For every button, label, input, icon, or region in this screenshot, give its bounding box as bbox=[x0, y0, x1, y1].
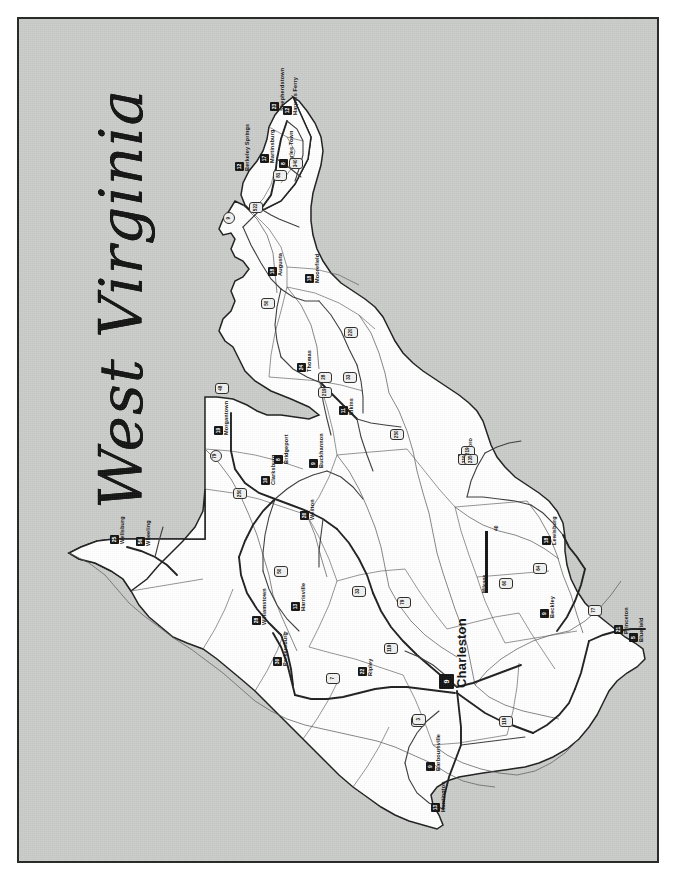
city-label: Bluefield bbox=[639, 617, 645, 642]
route-shield[interactable]: 522 bbox=[249, 202, 263, 213]
city-label: Charleston bbox=[455, 618, 468, 688]
route-shield[interactable]: 50 bbox=[274, 566, 288, 577]
city-marker[interactable]: 23 bbox=[270, 102, 279, 111]
route-number: 64 bbox=[538, 566, 543, 571]
city-label: Wheeling bbox=[146, 520, 152, 546]
city-marker[interactable]: 8 bbox=[274, 455, 283, 464]
city-marker[interactable]: 9 bbox=[540, 609, 549, 618]
route-shield[interactable]: 3 bbox=[412, 714, 426, 725]
route-number: 79 bbox=[402, 600, 407, 605]
route-shield[interactable]: 219 bbox=[318, 387, 332, 398]
city-marker-number: 24 bbox=[299, 365, 304, 371]
route-shield[interactable]: 250 bbox=[390, 429, 404, 440]
city-marker[interactable]: 11 bbox=[339, 406, 348, 415]
city-marker-number: 20 bbox=[302, 513, 307, 519]
city-marker[interactable]: 30 bbox=[273, 657, 282, 666]
route-shield[interactable]: 33 bbox=[343, 372, 357, 383]
route-shield[interactable]: 79 bbox=[210, 450, 222, 462]
city-marker[interactable]: 10 bbox=[261, 476, 270, 485]
map-frame: West Virginia .land{fill:#ffffff;stroke:… bbox=[17, 17, 659, 863]
city-marker[interactable]: 25 bbox=[110, 535, 119, 544]
city-label: Wellsburg bbox=[120, 516, 126, 544]
route-shield[interactable]: 79 bbox=[397, 597, 411, 608]
city-marker[interactable]: 18 bbox=[305, 274, 314, 283]
city-marker-number: 9 bbox=[311, 462, 316, 465]
city-marker[interactable]: 56 bbox=[136, 537, 145, 546]
map-page: West Virginia .land{fill:#ffffff;stroke:… bbox=[0, 0, 676, 880]
route-shield[interactable]: 48 bbox=[215, 383, 229, 394]
city-marker-number: 9 bbox=[428, 765, 433, 768]
city-label: Beckley bbox=[550, 596, 556, 618]
city-label: Berkeley Springs bbox=[245, 124, 251, 171]
route-shield[interactable]: 28 bbox=[318, 372, 332, 383]
scale-label: Mileage bbox=[481, 575, 487, 593]
city-marker[interactable]: 18 bbox=[268, 267, 277, 276]
route-shield[interactable]: 50 bbox=[261, 298, 275, 309]
route-shield[interactable]: 340 bbox=[289, 158, 303, 169]
route-number: 50 bbox=[279, 569, 284, 574]
city-label: Parkersburg bbox=[283, 632, 289, 666]
city-marker[interactable]: 20 bbox=[300, 511, 309, 520]
city-marker-number: 12 bbox=[237, 164, 242, 170]
city-marker[interactable]: 22 bbox=[358, 667, 367, 676]
route-number: 28 bbox=[323, 375, 328, 380]
city-label: Moorefield bbox=[315, 254, 321, 283]
city-marker-number: 9 bbox=[443, 680, 450, 684]
route-number: 522 bbox=[254, 204, 259, 212]
city-marker-number: 19 bbox=[216, 428, 221, 434]
city-marker[interactable]: 8 bbox=[279, 159, 288, 168]
city-label: Huntington bbox=[441, 781, 447, 812]
city-marker[interactable]: 12 bbox=[283, 106, 292, 115]
route-shield[interactable]: 60 bbox=[499, 578, 513, 589]
route-shield[interactable]: 64 bbox=[533, 563, 547, 574]
city-label: Lewisburg bbox=[552, 516, 558, 545]
city-label: Thomas bbox=[307, 350, 313, 372]
city-marker-number: 21 bbox=[616, 627, 621, 633]
route-number: 119 bbox=[389, 645, 394, 652]
map-canvas: .land{fill:#ffffff;stroke:#1d1d1d;stroke… bbox=[19, 19, 659, 863]
route-shield[interactable]: 119 bbox=[499, 716, 513, 727]
city-marker-number: 8 bbox=[281, 162, 286, 165]
city-marker[interactable]: 19 bbox=[214, 426, 223, 435]
city-marker[interactable]: 9 bbox=[439, 674, 454, 689]
city-label: Princeton bbox=[624, 607, 630, 634]
city-marker[interactable]: 17 bbox=[260, 154, 269, 163]
city-marker-number: 13 bbox=[293, 604, 298, 610]
city-marker-number: 18 bbox=[270, 269, 275, 275]
city-marker[interactable]: 18 bbox=[542, 536, 551, 545]
route-shield[interactable]: 33 bbox=[352, 586, 366, 597]
route-shield[interactable]: 77 bbox=[588, 605, 602, 616]
route-shield[interactable]: 9 bbox=[223, 212, 235, 224]
route-number: 33 bbox=[357, 589, 362, 594]
city-marker[interactable]: 9 bbox=[309, 459, 318, 468]
city-marker-number: 25 bbox=[112, 537, 117, 543]
city-marker-number: 30 bbox=[275, 659, 280, 665]
route-shield[interactable]: 119 bbox=[384, 643, 398, 654]
city-marker[interactable]: 13 bbox=[431, 803, 440, 812]
route-shield[interactable]: 235 bbox=[464, 454, 478, 465]
city-label: Weston bbox=[310, 499, 316, 520]
route-number: 220 bbox=[349, 329, 354, 337]
city-marker-number: 28 bbox=[254, 618, 259, 624]
city-marker-number: 8 bbox=[276, 458, 281, 461]
route-shield[interactable]: 7 bbox=[326, 673, 340, 684]
city-marker[interactable]: 9 bbox=[426, 762, 435, 771]
city-marker[interactable]: 28 bbox=[252, 616, 261, 625]
city-marker[interactable]: 5 bbox=[629, 633, 638, 642]
city-marker[interactable]: 24 bbox=[297, 363, 306, 372]
route-shield[interactable]: 81 bbox=[273, 170, 287, 181]
route-shield[interactable]: 220 bbox=[344, 327, 358, 338]
city-marker[interactable]: 13 bbox=[291, 602, 300, 611]
city-marker[interactable]: 12 bbox=[235, 162, 244, 171]
city-label: Ripley bbox=[368, 659, 374, 676]
route-number: 81 bbox=[278, 173, 283, 178]
route-number: 7 bbox=[331, 677, 336, 680]
city-label: Augusta bbox=[278, 253, 284, 276]
city-marker[interactable]: 21 bbox=[614, 625, 623, 634]
route-number: 235 bbox=[469, 456, 474, 464]
route-number: 48 bbox=[220, 386, 225, 391]
city-label: Martinsburg bbox=[270, 130, 276, 163]
city-label: Harrisville bbox=[301, 583, 307, 611]
route-shield[interactable]: 250 bbox=[233, 488, 247, 499]
route-number: 60 bbox=[504, 581, 509, 586]
